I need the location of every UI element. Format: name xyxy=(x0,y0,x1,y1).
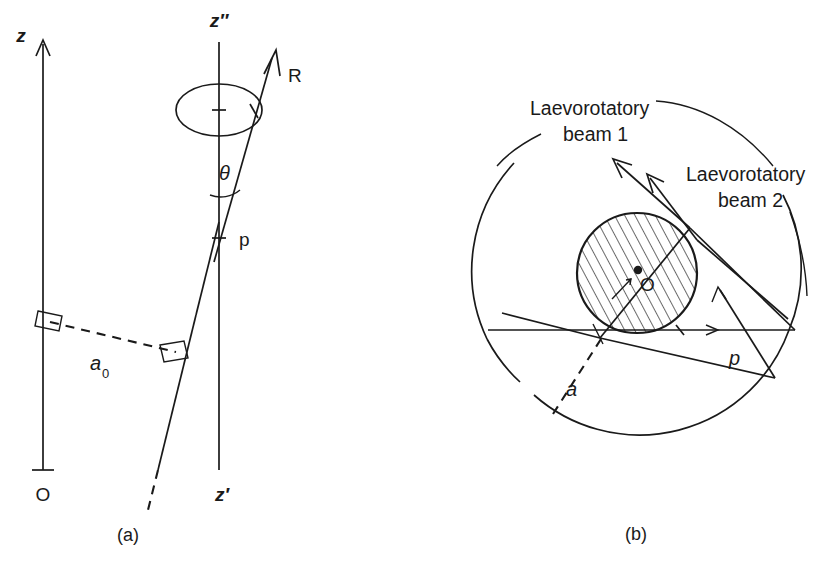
z-prime-label: z′ xyxy=(214,484,231,505)
beam-1-leader-curve-left xyxy=(497,134,541,166)
z-double-prime-axis xyxy=(212,42,226,470)
z-axis xyxy=(32,40,54,470)
radius-p-line xyxy=(600,338,775,378)
theta-arc xyxy=(210,190,240,197)
impact-parameter-label: a xyxy=(566,378,577,400)
centre-label: O xyxy=(640,274,655,295)
outer-arc-right xyxy=(783,195,801,330)
beam-2-label-line1: Laevorotatory xyxy=(686,163,805,185)
theta-label: θ xyxy=(219,162,230,184)
tilted-axis-upper xyxy=(196,222,219,315)
right-angle-box-left xyxy=(35,311,62,331)
a0-label: a xyxy=(90,352,101,374)
a0-dashed-line xyxy=(50,322,176,352)
panel-b: Laevorotatory beam 1 Laevorotatory beam … xyxy=(472,97,807,544)
vector-R-arrowhead xyxy=(264,50,280,76)
outer-radius-label: p xyxy=(728,347,740,369)
outer-arc-lower-left xyxy=(487,339,520,382)
beam-2-leader-curve xyxy=(790,212,807,296)
panel-b-caption: (b) xyxy=(625,524,647,544)
beam-1-leader-curve xyxy=(656,101,773,166)
a-dashed-line xyxy=(553,339,601,414)
tilted-body-axis xyxy=(148,222,219,510)
tilted-axis-lower xyxy=(158,315,196,470)
tilted-axis-dashed-extension xyxy=(148,470,158,510)
right-angle-marker-tilted xyxy=(160,341,188,362)
beam-1-label-line2: beam 1 xyxy=(563,123,628,145)
origin-label: O xyxy=(36,484,51,505)
panel-a: z z″ z′ O p R θ a 0 (a) xyxy=(15,10,301,545)
beam-1-label-line1: Laevorotatory xyxy=(530,97,649,119)
centre-dot xyxy=(634,266,642,274)
figure-canvas: z z″ z′ O p R θ a 0 (a) xyxy=(0,0,835,563)
vector-R-label: R xyxy=(288,65,302,86)
outer-arc-left xyxy=(472,163,514,339)
right-angle-box-right xyxy=(160,341,188,362)
figure-container: z z″ z′ O p R θ a 0 (a) xyxy=(0,0,835,563)
exit-ray-secondary xyxy=(697,240,788,319)
z-axis-label: z xyxy=(15,25,26,46)
radius-p-arrowhead xyxy=(712,287,726,302)
beam-2-label-line2: beam 2 xyxy=(718,189,783,211)
a0-subscript: 0 xyxy=(102,366,109,381)
panel-a-caption: (a) xyxy=(117,525,139,545)
incoming-ray-1 xyxy=(502,313,600,338)
outgoing-beam-2-arrowhead xyxy=(647,174,664,193)
right-angle-marker-z xyxy=(35,311,62,331)
a-crossing-tick xyxy=(593,324,603,344)
point-p-label: p xyxy=(239,229,250,250)
z-double-prime-label: z″ xyxy=(209,10,230,31)
